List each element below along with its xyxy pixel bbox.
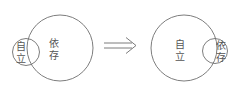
before-diagram: 依 存 自 立 bbox=[13, 15, 94, 81]
venn-transition-diagram: 依 存 自 立 自 立 依 存 bbox=[0, 0, 240, 91]
label-independence-2: 立 bbox=[16, 52, 26, 64]
label-independence-2: 立 bbox=[175, 50, 185, 62]
label-independence-1: 自 bbox=[175, 38, 185, 50]
label-dependence-1: 依 bbox=[216, 39, 226, 51]
label-dependence-1: 依 bbox=[49, 37, 59, 49]
label-dependence-2: 存 bbox=[49, 49, 59, 61]
label-independence-1: 自 bbox=[16, 40, 26, 52]
double-arrow-icon bbox=[104, 38, 136, 54]
label-dependence-2: 存 bbox=[216, 51, 226, 63]
large-circle-dependence bbox=[27, 15, 93, 81]
after-diagram: 自 立 依 存 bbox=[151, 15, 228, 81]
